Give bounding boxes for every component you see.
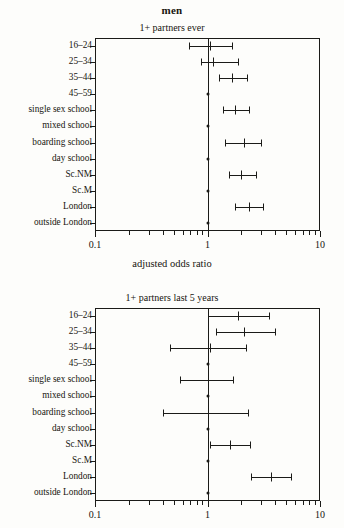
- category-label: Sc.M: [0, 186, 92, 195]
- x-axis-tick-label: 1: [205, 509, 210, 520]
- x-axis-minor-tick: [275, 231, 276, 235]
- category-label: 16–24: [0, 41, 92, 50]
- x-axis-minor-tick: [163, 231, 164, 235]
- reference-point-marker: [206, 125, 209, 128]
- reference-point-marker: [206, 491, 209, 494]
- ci-lower-cap: [216, 329, 217, 336]
- x-axis-major-tick: [208, 231, 209, 237]
- reference-point-marker: [206, 221, 209, 224]
- reference-line: [208, 308, 209, 501]
- category-label: boarding school: [0, 408, 92, 417]
- category-axis-labels: 16–2425–3435–4445–59single sex schoolmix…: [0, 0, 92, 1]
- ci-lower-cap: [210, 441, 211, 448]
- odds-ratio-point-marker: [238, 312, 239, 321]
- category-tick: [90, 380, 95, 381]
- x-axis-minor-tick: [202, 231, 203, 235]
- x-axis-minor-tick: [309, 501, 310, 505]
- category-label: single sex school: [0, 376, 92, 385]
- ci-lower-cap: [223, 107, 224, 114]
- odds-ratio-point-marker: [241, 170, 242, 179]
- reference-point-marker: [206, 157, 209, 160]
- category-tick: [90, 78, 95, 79]
- category-tick: [90, 62, 95, 63]
- ci-upper-cap: [250, 441, 251, 448]
- category-tick: [90, 493, 95, 494]
- x-axis-minor-tick: [202, 501, 203, 505]
- x-axis-minor-tick: [129, 231, 130, 235]
- odds-ratio-point-marker: [249, 202, 250, 211]
- x-axis-minor-tick: [174, 501, 175, 505]
- reference-point-marker: [206, 427, 209, 430]
- x-axis-major-tick: [320, 501, 321, 507]
- confidence-interval-line: [219, 78, 247, 79]
- x-axis-minor-tick: [309, 231, 310, 235]
- ci-upper-cap: [248, 409, 249, 416]
- x-axis-minor-tick: [183, 501, 184, 505]
- x-axis-minor-tick: [197, 501, 198, 505]
- x-axis-minor-tick: [261, 231, 262, 235]
- ci-lower-cap: [225, 139, 226, 146]
- category-label: outside London: [0, 218, 92, 227]
- x-axis-minor-tick: [149, 501, 150, 505]
- category-tick: [90, 316, 95, 317]
- ci-lower-cap: [251, 473, 252, 480]
- category-tick: [90, 477, 95, 478]
- category-label: 45–59: [0, 90, 92, 99]
- category-tick: [90, 126, 95, 127]
- x-axis-tick-label: 0.1: [89, 239, 102, 250]
- ci-lower-cap: [180, 377, 181, 384]
- ci-lower-cap: [219, 75, 220, 82]
- x-axis-minor-tick: [174, 231, 175, 235]
- category-tick: [90, 110, 95, 111]
- ci-lower-cap: [235, 203, 236, 210]
- x-axis-minor-tick: [163, 501, 164, 505]
- category-label: Sc.NM: [0, 170, 92, 179]
- x-axis-minor-tick: [149, 231, 150, 235]
- ci-upper-cap: [275, 329, 276, 336]
- category-tick: [90, 223, 95, 224]
- category-label: day school: [0, 424, 92, 433]
- ci-lower-cap: [170, 345, 171, 352]
- reference-point-marker: [206, 363, 209, 366]
- odds-ratio-point-marker: [208, 376, 209, 385]
- x-axis-caption: adjusted odds ratio: [0, 258, 344, 269]
- category-label: day school: [0, 154, 92, 163]
- category-label: 16–24: [0, 311, 92, 320]
- x-axis-tick-label: 0.1: [89, 509, 102, 520]
- category-label: mixed school: [0, 122, 92, 131]
- category-label: Sc.NM: [0, 440, 92, 449]
- ci-upper-cap: [261, 139, 262, 146]
- category-label: 45–59: [0, 360, 92, 369]
- category-label: outside London: [0, 488, 92, 497]
- category-tick: [90, 429, 95, 430]
- x-axis-tick-label: 1: [205, 239, 210, 250]
- ci-upper-cap: [291, 473, 292, 480]
- reference-point-marker: [206, 189, 209, 192]
- category-label: 35–44: [0, 74, 92, 83]
- category-tick: [90, 461, 95, 462]
- category-tick: [90, 396, 95, 397]
- x-axis-tick-label: 10: [315, 509, 325, 520]
- category-label: Sc.M: [0, 456, 92, 465]
- ci-upper-cap: [247, 75, 248, 82]
- ci-upper-cap: [238, 59, 239, 66]
- confidence-interval-line: [170, 348, 246, 349]
- x-axis-minor-tick: [129, 501, 130, 505]
- category-tick: [90, 143, 95, 144]
- ci-upper-cap: [263, 203, 264, 210]
- x-axis-minor-tick: [303, 231, 304, 235]
- category-label: 35–44: [0, 344, 92, 353]
- category-tick: [90, 191, 95, 192]
- ci-upper-cap: [246, 345, 247, 352]
- category-tick: [90, 207, 95, 208]
- ci-upper-cap: [232, 43, 233, 50]
- x-axis-minor-tick: [295, 501, 296, 505]
- x-axis-minor-tick: [295, 231, 296, 235]
- category-label: 25–34: [0, 327, 92, 336]
- category-tick: [90, 175, 95, 176]
- x-axis-minor-tick: [241, 501, 242, 505]
- category-label: 25–34: [0, 57, 92, 66]
- x-axis-major-tick: [95, 231, 96, 237]
- category-tick: [90, 159, 95, 160]
- reference-point-marker: [206, 395, 209, 398]
